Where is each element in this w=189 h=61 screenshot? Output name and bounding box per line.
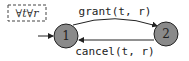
quantifier-box: ∀t∀r bbox=[8, 5, 46, 21]
state-2: 2 bbox=[154, 22, 178, 46]
state-1: 1 bbox=[54, 24, 78, 48]
transition-grant-label: grant(t, r) bbox=[79, 5, 152, 18]
quantifier-text: ∀t∀r bbox=[16, 7, 40, 20]
state-1-label: 1 bbox=[62, 29, 70, 43]
automaton-diagram: ∀t∀r grant(t, r) cancel(t, r) 1 2 bbox=[0, 0, 189, 61]
transition-cancel-label: cancel(t, r) bbox=[75, 45, 154, 58]
transition-grant-arrow bbox=[73, 19, 157, 26]
state-2-label: 2 bbox=[162, 27, 170, 41]
